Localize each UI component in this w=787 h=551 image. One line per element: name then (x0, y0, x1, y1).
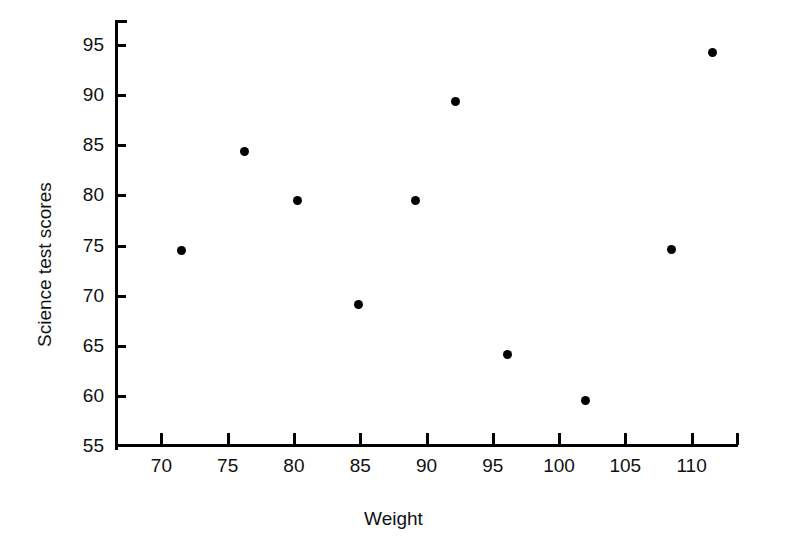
data-point (451, 97, 460, 106)
data-point (581, 396, 590, 405)
y-tick-label-95: 95 (58, 34, 104, 56)
y-tick-label-85: 85 (58, 134, 104, 156)
y-axis-spine (115, 20, 118, 450)
y-tick-65 (115, 345, 126, 348)
y-tick-75 (115, 245, 126, 248)
data-point (177, 246, 186, 255)
x-axis-title: Weight (0, 508, 787, 530)
scatter-plot: 707580859095100105110 556065707580859095… (0, 0, 787, 551)
x-tick-label-95: 95 (458, 455, 528, 477)
y-tick-label-55: 55 (58, 435, 104, 457)
y-axis-title: Science test scores (34, 182, 56, 347)
data-point (240, 147, 249, 156)
y-tick-95 (115, 44, 126, 47)
x-tick-80 (293, 433, 296, 444)
y-tick-label-70: 70 (58, 285, 104, 307)
data-point (708, 48, 717, 57)
data-point (667, 245, 676, 254)
x-axis-right-endcap (736, 433, 739, 445)
x-tick-label-85: 85 (325, 455, 395, 477)
x-tick-label-105: 105 (590, 455, 660, 477)
x-tick-label-75: 75 (193, 455, 263, 477)
x-tick-75 (227, 433, 230, 444)
x-tick-90 (426, 433, 429, 444)
data-point (354, 300, 363, 309)
y-tick-label-65: 65 (58, 335, 104, 357)
x-tick-label-110: 110 (657, 455, 727, 477)
y-tick-70 (115, 295, 126, 298)
y-tick-85 (115, 144, 126, 147)
y-axis-top-endcap (115, 20, 127, 23)
x-tick-100 (558, 433, 561, 444)
y-tick-label-80: 80 (58, 184, 104, 206)
y-tick-label-90: 90 (58, 84, 104, 106)
x-axis-spine (115, 444, 738, 447)
data-point (293, 196, 302, 205)
y-tick-90 (115, 94, 126, 97)
data-point (411, 196, 420, 205)
x-tick-85 (359, 433, 362, 444)
x-tick-label-100: 100 (524, 455, 594, 477)
x-tick-105 (624, 433, 627, 444)
x-axis-left-endcap (115, 433, 118, 445)
x-tick-label-70: 70 (126, 455, 196, 477)
x-tick-110 (691, 433, 694, 444)
y-tick-label-75: 75 (58, 235, 104, 257)
x-tick-label-90: 90 (392, 455, 462, 477)
data-point (503, 350, 512, 359)
x-tick-70 (160, 433, 163, 444)
y-tick-label-60: 60 (58, 385, 104, 407)
x-tick-95 (492, 433, 495, 444)
x-tick-label-80: 80 (259, 455, 329, 477)
y-tick-80 (115, 194, 126, 197)
y-tick-60 (115, 395, 126, 398)
